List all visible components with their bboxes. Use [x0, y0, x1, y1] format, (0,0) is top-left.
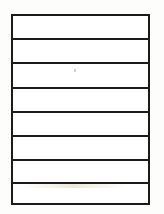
table-row-text	[13, 89, 148, 111]
table-row[interactable]	[13, 113, 148, 137]
table-row-text	[13, 161, 148, 182]
table-row-text	[13, 113, 148, 135]
table-row[interactable]	[13, 64, 148, 89]
table-row-text	[13, 16, 148, 38]
table-row[interactable]	[13, 184, 148, 203]
table-row[interactable]	[13, 137, 148, 161]
table-row[interactable]	[13, 161, 148, 184]
table-row[interactable]	[13, 16, 148, 40]
table-frame	[11, 14, 150, 205]
table-row-text	[13, 184, 148, 203]
table-row-text	[13, 137, 148, 159]
table-row-text	[13, 64, 148, 87]
table-row[interactable]	[13, 40, 148, 64]
table-row-text	[13, 40, 148, 62]
table-row[interactable]	[13, 89, 148, 113]
page-canvas	[0, 0, 164, 214]
